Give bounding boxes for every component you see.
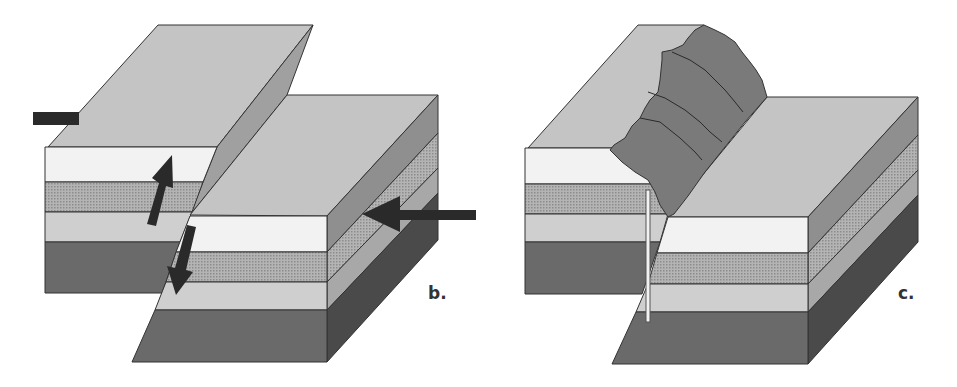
panel-b [45,25,438,362]
panel-label-b: b. [428,283,447,303]
c-right-layer-white [657,217,808,253]
borehole-marker [646,190,650,322]
right-layer-dark [132,310,327,362]
left-layer-dotted [45,182,203,212]
left-layer-dark [45,242,180,293]
c-left-layer-dark [525,242,660,294]
panel-label-c: c. [898,283,915,303]
fault-diagram [0,0,957,387]
c-right-layer-light [636,284,808,312]
c-right-layer-dotted [648,253,808,284]
right-layer-dotted [166,252,327,282]
left-layer-white [45,147,217,182]
left-layer-light [45,212,192,242]
arrow-compression-tail-icon [33,112,79,125]
c-right-layer-dark [612,312,808,364]
right-layer-white [176,216,327,252]
panel-c [525,25,918,364]
